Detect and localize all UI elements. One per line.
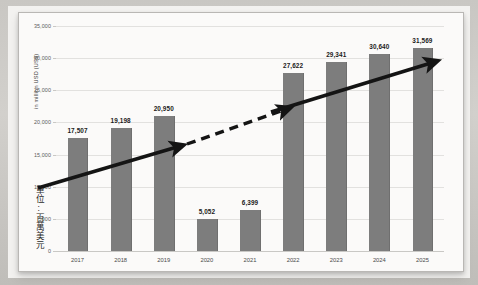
plot-area: 35,00030,00025,00020,00015,00010,0005000… xyxy=(56,26,444,251)
x-tick-label-2022: 2022 xyxy=(287,257,300,263)
x-tick-label-2019: 2019 xyxy=(157,257,170,263)
y-tick-mark-35000 xyxy=(53,26,56,27)
bar-2022[interactable] xyxy=(283,73,304,251)
x-tick-label-2018: 2018 xyxy=(114,257,127,263)
x-tick-label-2025: 2025 xyxy=(416,257,429,263)
bar-value-label-2019: 20,950 xyxy=(154,105,174,112)
y-tick-mark-5000 xyxy=(53,219,56,220)
bar-2017[interactable] xyxy=(68,138,89,251)
y-tick-label-10000: 10,000 xyxy=(34,184,51,190)
y-tick-label-0: 0 xyxy=(48,248,51,254)
y-tick-label-25000: 25,000 xyxy=(34,87,51,93)
bar-value-label-2020: 5,052 xyxy=(199,208,216,215)
x-tick-label-2021: 2021 xyxy=(244,257,257,263)
y-tick-label-15000: 15,000 xyxy=(34,152,51,158)
y-tick-mark-25000 xyxy=(53,90,56,91)
y-tick-label-30000: 30,000 xyxy=(34,55,51,61)
gridline-35000 xyxy=(56,26,444,27)
gridline-0 xyxy=(56,251,444,252)
bar-value-label-2023: 29,341 xyxy=(326,51,346,58)
y-tick-mark-0 xyxy=(53,251,56,252)
x-tick-label-2023: 2023 xyxy=(330,257,343,263)
bar-value-label-2018: 19,198 xyxy=(111,117,131,124)
y-axis-title-english: in million USD (US$) xyxy=(33,54,39,109)
bar-value-label-2025: 31,569 xyxy=(412,37,432,44)
bar-2025[interactable] xyxy=(413,48,434,251)
x-tick-label-2017: 2017 xyxy=(71,257,84,263)
bar-2021[interactable] xyxy=(240,210,261,251)
x-tick-label-2020: 2020 xyxy=(200,257,213,263)
bar-value-label-2024: 30,640 xyxy=(369,43,389,50)
y-tick-mark-20000 xyxy=(53,122,56,123)
bar-2023[interactable] xyxy=(326,62,347,251)
y-tick-label-35000: 35,000 xyxy=(34,23,51,29)
y-tick-label-20000: 20,000 xyxy=(34,119,51,125)
scanned-page-background: in million USD (US$) 單位:百萬美元 35,00030,00… xyxy=(0,0,478,285)
bar-value-label-2022: 27,622 xyxy=(283,62,303,69)
bar-2020[interactable] xyxy=(197,219,218,251)
y-tick-label-5000: 5000 xyxy=(39,216,51,222)
x-tick-label-2024: 2024 xyxy=(373,257,386,263)
bar-2019[interactable] xyxy=(154,116,175,251)
bar-value-label-2021: 6,399 xyxy=(242,199,259,206)
y-tick-mark-30000 xyxy=(53,58,56,59)
chart-area: in million USD (US$) 單位:百萬美元 35,00030,00… xyxy=(18,12,464,272)
bar-2024[interactable] xyxy=(369,54,390,251)
bar-value-label-2017: 17,507 xyxy=(67,127,87,134)
bar-2018[interactable] xyxy=(111,128,132,251)
y-tick-mark-10000 xyxy=(53,187,56,188)
y-tick-mark-15000 xyxy=(53,155,56,156)
